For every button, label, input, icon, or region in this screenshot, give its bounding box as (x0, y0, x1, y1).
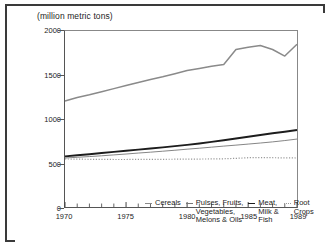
y-tick-mark (58, 119, 64, 120)
x-tick-label: 1985 (240, 212, 257, 221)
x-axis-labels: 19701975198019851989 (64, 212, 298, 226)
chart-figure: (million metric tons) 0500100015002000 C… (0, 0, 330, 247)
legend-label: Cereals (155, 199, 181, 208)
x-tick-label: 1975 (117, 212, 134, 221)
legend-marker-icon (284, 203, 291, 204)
x-tick-label: 1989 (290, 212, 307, 221)
y-tick-mark (58, 208, 64, 209)
series-canvas (65, 31, 297, 207)
y-tick-mark (58, 30, 64, 31)
series-line-1 (65, 139, 297, 158)
legend-marker-icon (186, 203, 193, 204)
legend-entry[interactable]: Cereals (145, 199, 181, 208)
y-axis-labels: 0500100015002000 (33, 30, 61, 208)
x-tick-label: 1980 (179, 212, 196, 221)
y-tick-mark (58, 164, 64, 165)
legend-marker-icon (145, 203, 152, 204)
x-tick-label: 1970 (56, 212, 73, 221)
chart-title: (million metric tons) (37, 11, 113, 21)
plot-area: CerealsPulses, Fruits, Vegetables, Melon… (64, 30, 298, 208)
series-line-0 (65, 44, 297, 101)
series-line-3 (65, 158, 297, 160)
legend-marker-icon (248, 203, 255, 204)
y-tick-mark (58, 75, 64, 76)
